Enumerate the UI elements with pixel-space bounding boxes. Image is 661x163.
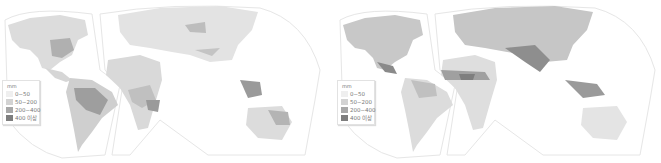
legend-label: 400 이상 (350, 114, 372, 122)
legend-item: 400 이상 (341, 114, 373, 122)
legend-swatch (6, 99, 13, 105)
legend-swatch (341, 115, 348, 121)
precipitation-map-right: mm 0~50 50~200 200~400 400 이상 (335, 0, 661, 163)
legend-unit: mm (342, 83, 352, 89)
legend-label: 50~200 (350, 98, 372, 106)
legend-swatch (341, 91, 348, 97)
legend-left: mm 0~50 50~200 200~400 400 이상 (2, 80, 40, 125)
legend-right: mm 0~50 50~200 200~400 400 이상 (337, 80, 375, 125)
legend-label: 0~50 (350, 90, 365, 98)
legend-item: 50~200 (341, 98, 373, 106)
precipitation-map-left: mm 0~50 50~200 200~400 400 이상 (0, 0, 330, 163)
legend-swatch (341, 107, 348, 113)
legend-label: 200~400 (15, 106, 41, 114)
legend-item: 400 이상 (6, 114, 38, 122)
legend-item: 0~50 (6, 90, 38, 98)
legend-item: 0~50 (341, 90, 373, 98)
legend-label: 0~50 (15, 90, 30, 98)
legend-swatch (6, 91, 13, 97)
legend-swatch (341, 99, 348, 105)
legend-label: 200~400 (350, 106, 376, 114)
world-map-left (0, 0, 330, 163)
legend-label: 400 이상 (15, 114, 37, 122)
world-map-right (335, 0, 661, 163)
legend-swatch (6, 115, 13, 121)
legend-swatch (6, 107, 13, 113)
legend-item: 200~400 (341, 106, 373, 114)
legend-unit: mm (7, 83, 17, 89)
legend-item: 50~200 (6, 98, 38, 106)
legend-item: 200~400 (6, 106, 38, 114)
legend-label: 50~200 (15, 98, 37, 106)
